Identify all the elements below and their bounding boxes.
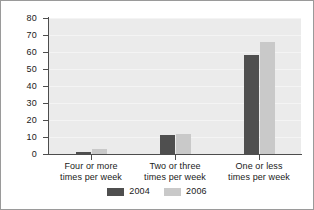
y-axis-tick-label: 60 <box>3 48 37 57</box>
x-axis-category-label-line1: times per week <box>43 172 139 183</box>
y-axis-tick-label: 0 <box>3 150 37 159</box>
y-axis-line <box>48 17 49 155</box>
legend-label-2004: 2004 <box>129 187 150 196</box>
legend-entry-2004[interactable]: 2004 <box>107 187 150 196</box>
y-axis-tick <box>43 52 48 53</box>
bar-2006-cat0 <box>92 149 107 154</box>
x-axis-category-label-line0: Four or more <box>43 161 139 172</box>
gridline <box>49 18 301 19</box>
y-axis-tick <box>43 137 48 138</box>
x-axis-tick <box>175 155 176 160</box>
y-axis-tick <box>43 18 48 19</box>
legend-swatch-2004 <box>107 188 124 196</box>
bar-2006-cat1 <box>176 134 191 154</box>
y-axis-tick <box>43 120 48 121</box>
y-axis-tick <box>43 103 48 104</box>
y-axis-tick-label: 30 <box>3 99 37 108</box>
y-axis-tick <box>43 69 48 70</box>
x-axis-category-label: Four or moretimes per week <box>43 161 139 183</box>
y-axis-tick-label: 80 <box>3 14 37 23</box>
legend-swatch-2006 <box>164 188 181 196</box>
x-axis-category-label: Two or threetimes per week <box>127 161 223 183</box>
x-axis-tick <box>91 155 92 160</box>
bar-chart-figure: 80706050403020100 Four or moretimes per … <box>0 0 314 210</box>
x-axis-category-label-line1: times per week <box>127 172 223 183</box>
bar-2004-cat1 <box>160 135 175 154</box>
legend-label-2006: 2006 <box>186 187 207 196</box>
bar-2004-cat0 <box>76 152 91 154</box>
x-axis-category-label-line0: One or less <box>211 161 307 172</box>
gridline <box>49 35 301 36</box>
chart-legend: 20042006 <box>1 187 313 196</box>
legend-entry-2006[interactable]: 2006 <box>164 187 207 196</box>
x-axis-tick <box>259 155 260 160</box>
y-axis-tick-label: 40 <box>3 82 37 91</box>
x-axis-category-label: One or lesstimes per week <box>211 161 307 183</box>
y-axis-tick <box>43 35 48 36</box>
x-axis-category-label-line0: Two or three <box>127 161 223 172</box>
bar-2004-cat2 <box>244 55 259 154</box>
y-axis-tick <box>43 154 48 155</box>
bar-2006-cat2 <box>260 42 275 154</box>
y-axis-tick-label: 70 <box>3 31 37 40</box>
y-axis-tick-label: 10 <box>3 133 37 142</box>
y-axis-tick-label: 50 <box>3 65 37 74</box>
y-axis-tick <box>43 86 48 87</box>
x-axis-category-label-line1: times per week <box>211 172 307 183</box>
y-axis-tick-label: 20 <box>3 116 37 125</box>
